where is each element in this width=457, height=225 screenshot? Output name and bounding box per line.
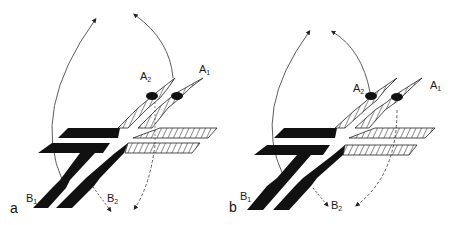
centromere-a2 <box>365 92 377 100</box>
arc-arrow-right <box>135 15 173 78</box>
black-bar-upper <box>274 128 337 138</box>
panel-b: A2 A1 B1 B2 b <box>227 0 455 225</box>
arc-arrow-right <box>333 32 370 92</box>
panel-letter-b: b <box>229 199 237 215</box>
dashed-arrow-lower <box>135 145 155 208</box>
label-b1: B1 <box>240 191 251 203</box>
label-a1: A1 <box>199 64 210 76</box>
label-b2: B2 <box>107 193 118 205</box>
label-a2: A2 <box>353 83 364 95</box>
hatched-bar-lower <box>125 143 200 153</box>
dashed-arrow-b2 <box>313 188 327 205</box>
centromere-a2 <box>146 92 158 100</box>
label-b2: B2 <box>331 200 342 212</box>
label-a2: A2 <box>140 71 151 83</box>
panel-letter-a: a <box>10 200 18 216</box>
label-b1: B1 <box>26 193 37 205</box>
black-bar-lower <box>254 145 330 155</box>
panel-b-drawing <box>227 0 457 225</box>
chromosome-exchange-figure: A2 A1 B1 B2 a <box>0 0 457 225</box>
centromere-a1 <box>171 92 183 100</box>
panel-a: A2 A1 B1 B2 a <box>0 0 228 225</box>
label-a1: A1 <box>430 80 441 92</box>
hatched-bar-upper <box>133 128 217 138</box>
hatched-bar-lower <box>343 145 417 155</box>
centromere-a1 <box>391 93 403 101</box>
hatched-bar-upper <box>349 128 435 138</box>
black-bar-upper <box>58 128 120 138</box>
black-bar-lower <box>38 143 110 153</box>
